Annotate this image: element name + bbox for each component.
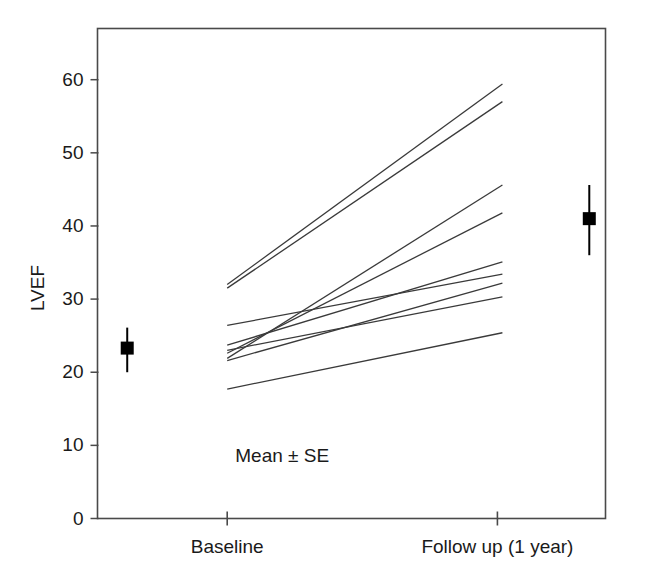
- patient-trajectory-lines: [227, 84, 502, 389]
- trajectory-line-6: [227, 274, 502, 325]
- y-tick-label: 20: [0, 361, 84, 383]
- trajectory-line-5: [227, 262, 502, 345]
- trajectory-line-8: [227, 297, 502, 350]
- mean-se-markers: [121, 185, 596, 372]
- axes-frame: [98, 29, 606, 519]
- baseline-mean-marker: [121, 342, 134, 355]
- followup-mean-marker: [583, 212, 596, 225]
- y-tick-label: 0: [0, 508, 84, 530]
- y-tick-label: 50: [0, 142, 84, 164]
- y-tick-label: 40: [0, 215, 84, 237]
- plot-canvas: [0, 0, 658, 585]
- y-tick-label: 60: [0, 69, 84, 91]
- plot-border: [98, 29, 606, 519]
- mean-se-annotation: Mean ± SE: [235, 445, 329, 467]
- lvef-figure: LVEF Mean ± SE 0102030405060BaselineFoll…: [0, 0, 658, 585]
- trajectory-line-1: [227, 84, 502, 284]
- y-tick-label: 10: [0, 434, 84, 456]
- x-tick-label-followup: Follow up (1 year): [421, 536, 573, 558]
- trajectory-line-9: [227, 333, 502, 389]
- x-tick-label-baseline: Baseline: [191, 536, 264, 558]
- trajectory-line-2: [227, 102, 502, 288]
- trajectory-line-7: [227, 283, 502, 361]
- y-tick-label: 30: [0, 288, 84, 310]
